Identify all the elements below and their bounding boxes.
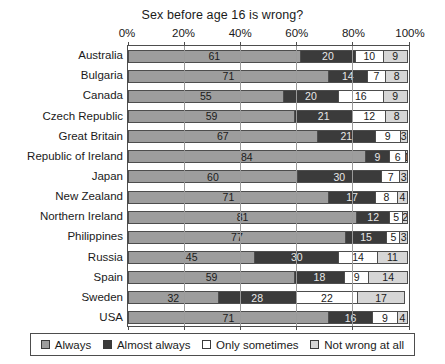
bar-segment[interactable]: 14 [328, 70, 368, 83]
bar-segment[interactable]: 12 [356, 211, 390, 224]
bar-segment[interactable]: 20 [283, 90, 340, 103]
bar-segment[interactable]: 20 [300, 50, 357, 63]
y-tick-label: New Zealand [0, 189, 123, 203]
gridline [184, 46, 185, 326]
legend-item[interactable]: Always [41, 339, 91, 351]
bar-segment[interactable]: 55 [128, 90, 284, 103]
axis-tick-mark [240, 42, 241, 46]
bar-row[interactable]: 5520169 [128, 90, 409, 103]
bar-segment[interactable]: 4 [397, 191, 408, 204]
legend-item[interactable]: Only sometimes [202, 339, 298, 351]
x-tick-label: 80% [342, 27, 365, 39]
bar-segment[interactable]: 1 [405, 150, 408, 163]
bar-segment[interactable]: 9 [375, 130, 400, 143]
bar-segment[interactable]: 10 [355, 50, 383, 63]
bar-row[interactable]: 6120109 [128, 50, 409, 63]
bar-segment[interactable]: 9 [344, 271, 369, 284]
axis-tick-mark [128, 42, 129, 46]
bar-segment[interactable]: 17 [357, 291, 405, 304]
bar-row[interactable]: 711694 [128, 311, 409, 324]
bar-segment[interactable]: 84 [128, 150, 366, 163]
bar-segment[interactable]: 9 [365, 150, 390, 163]
bar-value-label: 30 [333, 172, 345, 183]
bar-value-label: 5 [393, 212, 399, 223]
bar-segment[interactable]: 21 [294, 110, 353, 123]
bar-segment[interactable]: 59 [128, 271, 295, 284]
bar-segment[interactable]: 8 [375, 191, 398, 204]
bar-segment[interactable]: 45 [128, 251, 255, 264]
bar-value-label: 9 [375, 152, 381, 163]
bar-segment[interactable]: 6 [389, 150, 406, 163]
bar-row[interactable]: 711478 [128, 70, 409, 83]
bar-segment[interactable]: 30 [297, 170, 382, 183]
bar-segment[interactable]: 14 [368, 271, 408, 284]
bar-segment[interactable]: 9 [383, 90, 408, 103]
bar-row[interactable]: 711784 [128, 191, 409, 204]
x-tick-label: 20% [172, 27, 195, 39]
bar-segment[interactable]: 2 [402, 211, 408, 224]
x-tick-label: 40% [229, 27, 252, 39]
bar-segment[interactable]: 16 [338, 90, 383, 103]
bar-segment[interactable]: 18 [294, 271, 345, 284]
bar-segment[interactable]: 77 [128, 231, 346, 244]
bar-segment[interactable]: 7 [381, 170, 401, 183]
bar-value-label: 71 [223, 71, 235, 82]
bar-row[interactable]: 45301411 [128, 251, 409, 264]
bar-segment[interactable]: 16 [328, 311, 373, 324]
bar-segment[interactable]: 14 [338, 251, 378, 264]
bar-segment[interactable]: 71 [128, 311, 329, 324]
bar-row[interactable]: 811252 [128, 211, 409, 224]
bar-segment[interactable]: 5 [389, 211, 403, 224]
bar-segment[interactable]: 15 [345, 231, 387, 244]
bar-segment[interactable]: 7 [367, 70, 387, 83]
bar-segment[interactable]: 12 [352, 110, 386, 123]
bar-segment[interactable]: 9 [383, 50, 408, 63]
bar-value-label: 8 [383, 192, 389, 203]
y-tick-label: Czech Republic [0, 109, 123, 123]
bar-segment[interactable]: 28 [218, 291, 297, 304]
axis-tick-mark [409, 326, 410, 330]
bar-row[interactable]: 5921128 [128, 110, 409, 123]
bar-segment[interactable]: 60 [128, 170, 298, 183]
bar-row[interactable]: 771553 [128, 231, 409, 244]
legend-item[interactable]: Not wrong at all [310, 339, 404, 351]
bar-row[interactable]: 32282217 [128, 291, 409, 304]
bar-value-label: 21 [340, 131, 352, 142]
bar-segment[interactable]: 59 [128, 110, 295, 123]
bar-segment[interactable]: 81 [128, 211, 357, 224]
bar-segment[interactable]: 61 [128, 50, 301, 63]
bar-row[interactable]: 5918914 [128, 271, 409, 284]
bar-segment[interactable]: 5 [386, 231, 400, 244]
y-tick-label: Australia [0, 48, 123, 62]
bar-value-label: 9 [385, 131, 391, 142]
bar-segment[interactable]: 71 [128, 191, 329, 204]
y-tick-label: Spain [0, 270, 123, 284]
bar-segment[interactable]: 22 [296, 291, 358, 304]
bar-row[interactable]: 603073 [128, 170, 409, 183]
bar-segment[interactable]: 9 [372, 311, 397, 324]
bar-value-label: 17 [375, 293, 387, 304]
bar-value-label: 14 [352, 252, 364, 263]
bar-segment[interactable]: 67 [128, 130, 318, 143]
bar-value-label: 8 [394, 71, 400, 82]
bar-value-label: 3 [401, 232, 407, 243]
bar-segment[interactable]: 3 [399, 170, 407, 183]
bar-segment[interactable]: 32 [128, 291, 219, 304]
bar-segment[interactable]: 8 [385, 110, 408, 123]
bar-segment[interactable]: 3 [399, 231, 407, 244]
bar-value-label: 4 [399, 192, 405, 203]
legend-item[interactable]: Almost always [103, 339, 191, 351]
bar-value-label: 5 [390, 232, 396, 243]
bar-row[interactable]: 84961 [128, 150, 409, 163]
legend-swatch-icon [310, 340, 319, 349]
bar-value-label: 9 [392, 91, 398, 102]
bar-segment[interactable]: 11 [377, 251, 408, 264]
bar-segment[interactable]: 4 [397, 311, 408, 324]
bar-segment[interactable]: 21 [317, 130, 376, 143]
bar-segment[interactable]: 71 [128, 70, 329, 83]
legend-label: Almost always [117, 339, 191, 351]
bar-value-label: 12 [367, 212, 379, 223]
bar-segment[interactable]: 8 [385, 70, 408, 83]
bar-row[interactable]: 672193 [128, 130, 409, 143]
bar-segment[interactable]: 3 [400, 130, 408, 143]
